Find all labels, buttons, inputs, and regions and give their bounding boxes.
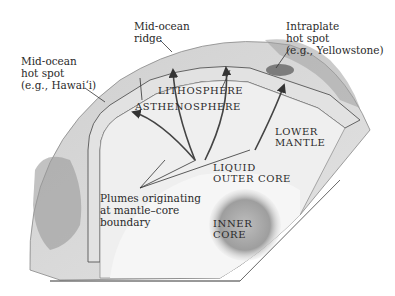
label-plumes: Plumes originating at mantle–core bounda… [100,193,201,228]
label-mid-ocean-hot-spot: Mid-ocean hot spot (e.g., Hawai‘i) [21,56,96,91]
label-asthenosphere: ASTHENOSPHERE [135,101,241,112]
label-intraplate-hot-spot: Intraplate hot spot (e.g., Yellowstone) [286,21,384,56]
label-mid-ocean-ridge: Mid-ocean ridge [134,21,190,45]
earth-cutaway-diagram: Mid-ocean hot spot (e.g., Hawai‘i) Mid-o… [0,0,395,296]
label-liquid-outer-core: LIQUID OUTER CORE [213,162,291,184]
label-inner-core: INNER CORE [213,218,252,240]
label-lower-mantle: LOWER MANTLE [275,126,325,148]
label-lithosphere: LITHOSPHERE [158,85,243,96]
